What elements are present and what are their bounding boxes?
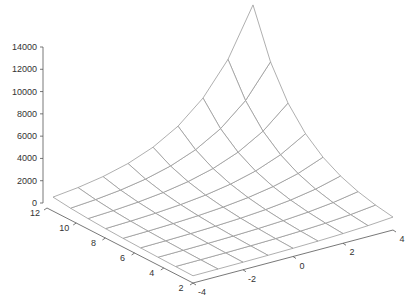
surface-plot: 0200040006000800010000120001400024681012… <box>0 0 418 300</box>
surface-mesh <box>53 5 393 276</box>
x-tick-label: 0 <box>299 261 304 271</box>
z-tick-label: 6000 <box>17 131 37 141</box>
x-tick <box>193 283 196 285</box>
x-tick-label: -2 <box>248 274 256 284</box>
y-tick <box>132 253 135 255</box>
y-tick-label: 8 <box>91 238 96 248</box>
y-tick <box>44 208 47 210</box>
y-tick-label: 2 <box>178 283 183 293</box>
x-tick <box>343 243 346 245</box>
x-tick-label: -4 <box>198 287 206 297</box>
z-tick-label: 8000 <box>17 109 37 119</box>
z-tick-label: 12000 <box>12 64 37 74</box>
z-tick-label: 0 <box>32 198 37 208</box>
x-tick-label: 2 <box>349 247 354 257</box>
y-tick <box>102 238 105 240</box>
x-tick <box>243 270 246 272</box>
y-tick <box>190 283 193 285</box>
y-tick <box>161 268 164 270</box>
x-tick <box>393 230 396 232</box>
z-tick-label: 14000 <box>12 42 37 52</box>
z-tick-label: 4000 <box>17 153 37 163</box>
y-tick-label: 6 <box>120 253 125 263</box>
y-tick-label: 12 <box>30 208 40 218</box>
z-tick-label: 2000 <box>17 176 37 186</box>
y-tick-label: 10 <box>59 223 69 233</box>
x-tick-label: 4 <box>399 234 404 244</box>
x-tick <box>293 257 296 259</box>
z-tick-label: 10000 <box>12 87 37 97</box>
y-tick-label: 4 <box>149 268 154 278</box>
y-tick <box>73 223 76 225</box>
